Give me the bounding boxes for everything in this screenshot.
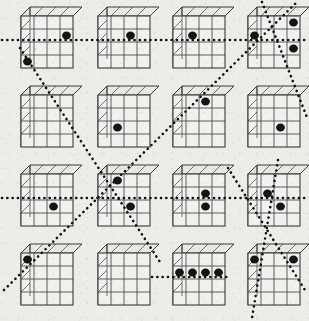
cube-r2c3-dot-1 — [201, 98, 210, 106]
cube-r1c3 — [173, 7, 234, 68]
cube-r4c3-dot-1 — [175, 269, 184, 277]
cube-r1c4-dot-1 — [250, 32, 259, 40]
cube-r2c1 — [21, 86, 82, 147]
cubes-layer — [21, 7, 309, 305]
cube-r4c1-dot-1 — [23, 256, 32, 264]
cube-r1c4-dot-2 — [289, 19, 298, 27]
cube-r1c2-dot-1 — [126, 32, 135, 40]
cube-r4c4-dot-1 — [250, 256, 259, 264]
cube-r2c4-dot-1 — [276, 124, 285, 132]
cube-r4c3-dot-2 — [188, 269, 197, 277]
cube-r2c4 — [248, 86, 309, 147]
cube-r3c4-dot-2 — [276, 203, 285, 211]
cube-r4c3-dot-3 — [201, 269, 210, 277]
path-diagonal-main — [20, 48, 160, 262]
cube-r1c1-dot-1 — [62, 32, 71, 40]
cube-r3c2-dot-2 — [126, 203, 135, 211]
cube-r4c3-dot-4 — [214, 269, 223, 277]
cube-r4c4-dot-2 — [289, 256, 298, 264]
cube-r1c3-dot-1 — [188, 32, 197, 40]
cube-r3c1-dot-1 — [49, 203, 58, 211]
cube-r4c4 — [248, 244, 309, 305]
cube-r3c3-dot-2 — [201, 203, 210, 211]
cube-r1c1-dot-2 — [23, 58, 32, 66]
cube-r2c2-dot-1 — [113, 124, 122, 132]
cube-r3c4-dot-1 — [263, 190, 272, 198]
cube-r3c4 — [248, 165, 309, 226]
cube-r3c1 — [21, 165, 82, 226]
cube-r2c2 — [98, 86, 159, 147]
cube-r3c2 — [98, 165, 159, 226]
cube-r4c2 — [98, 244, 159, 305]
cube-r3c2-dot-1 — [113, 177, 122, 185]
cube-array-figure — [0, 0, 309, 321]
figure-canvas — [0, 0, 309, 321]
cube-r1c4-dot-3 — [289, 45, 298, 53]
cube-r3c3-dot-1 — [201, 190, 210, 198]
cube-r4c1 — [21, 244, 82, 305]
